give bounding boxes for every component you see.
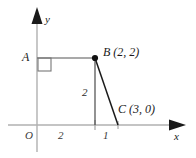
point-c-label: C (3, 0) [118, 103, 155, 115]
x-span-one-label: 1 [103, 130, 109, 141]
vertical-leg-length-label: 2 [82, 87, 88, 98]
x-span-two-label: 2 [58, 130, 64, 141]
geometry-figure: y x O A B (2, 2) C (3, 0) 2 2 1 [0, 0, 196, 158]
point-b-dot [92, 55, 98, 61]
y-axis-label: y [45, 14, 50, 25]
segment-bc [95, 58, 118, 125]
origin-label: O [25, 130, 33, 141]
right-angle-marker [38, 58, 51, 71]
point-a-label: A [22, 51, 29, 63]
x-axis-label: x [174, 131, 179, 142]
point-b-label: B (2, 2) [103, 46, 139, 58]
x-axis-arrowhead [169, 120, 186, 131]
y-axis-arrowhead [32, 7, 43, 24]
